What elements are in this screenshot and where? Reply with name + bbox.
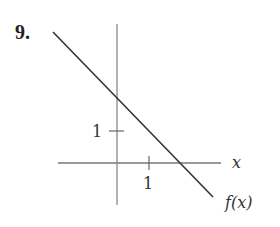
x-axis-label: x <box>232 153 241 172</box>
graph: 1 1 x f(x) <box>0 0 280 227</box>
curve-label: f(x) <box>224 193 252 212</box>
x-tick-label: 1 <box>143 174 153 193</box>
function-line <box>53 32 213 197</box>
y-tick-label: 1 <box>92 122 102 141</box>
